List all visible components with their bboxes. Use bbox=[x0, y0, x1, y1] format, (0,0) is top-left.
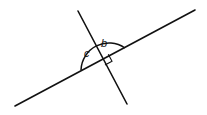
angle-label-c: c bbox=[84, 47, 90, 59]
angle-diagram: c b bbox=[0, 0, 207, 115]
long-line bbox=[15, 10, 195, 106]
angle-label-b: b bbox=[101, 37, 107, 49]
